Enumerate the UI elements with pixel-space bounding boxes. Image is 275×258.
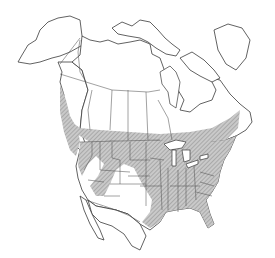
lake-michigan: [172, 150, 176, 166]
range-map: Species distribution range: [0, 0, 275, 258]
north-america-map-svg: [0, 0, 275, 258]
greenland-landmass: [214, 24, 250, 70]
baffin-island: [180, 52, 220, 82]
